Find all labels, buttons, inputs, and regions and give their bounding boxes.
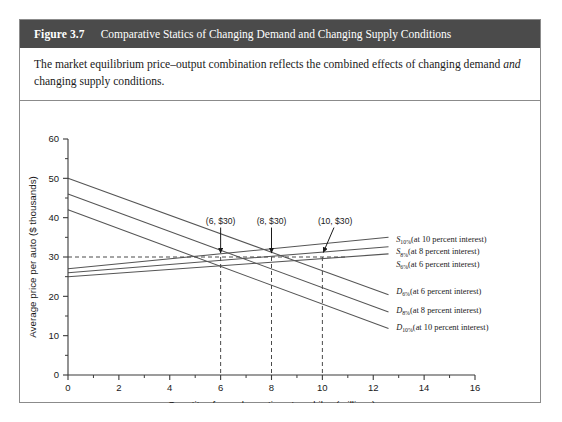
y-tick-label: 40 — [48, 212, 59, 223]
y-tick-label: 0 — [54, 369, 59, 380]
figure-container: Figure 3.7 Comparative Statics of Changi… — [19, 19, 541, 403]
x-tick-label: 2 — [116, 382, 121, 393]
curve-lines-group — [68, 178, 389, 328]
x-tick-label: 10 — [317, 382, 328, 393]
y-axis-title: Average price per auto ($ thousands) — [27, 176, 38, 338]
caption-text-italic: and — [503, 58, 520, 71]
chart-plot-area: 01020304050600246810121416 (6, $30)(8, $… — [20, 101, 542, 403]
x-tick-label: 6 — [218, 382, 223, 393]
annotation-point: (10, $30) — [318, 216, 353, 226]
curve-label-S6: S6%(at 6 percent interest) — [396, 260, 480, 270]
curve-labels-group: D6%(at 6 percent interest)D8%(at 8 perce… — [395, 235, 488, 333]
figure-title: Comparative Statics of Changing Demand a… — [101, 28, 452, 40]
y-tick-label: 30 — [48, 251, 59, 262]
curve-label-D8: D8%(at 8 percent interest) — [395, 306, 481, 316]
y-tick-label: 50 — [48, 173, 59, 184]
curve-S6 — [68, 254, 389, 277]
supply-demand-chart: 01020304050600246810121416 (6, $30)(8, $… — [20, 101, 542, 403]
annotation-point: (6, $30) — [206, 216, 236, 226]
caption-text-part2: changing supply conditions. — [34, 75, 164, 88]
dropline-group — [221, 257, 323, 375]
annotations-group: (6, $30)(8, $30)(10, $30) — [206, 216, 353, 253]
caption-text-part1: The market equilibrium price–output comb… — [34, 58, 503, 71]
x-tick-label: 8 — [269, 382, 274, 393]
x-tick-label: 16 — [470, 382, 481, 393]
curve-label-S10: S10%(at 10 percent interest) — [396, 235, 487, 245]
x-axis-title: Quantity of new domestic automobiles (mi… — [168, 399, 375, 403]
x-tick-label: 12 — [368, 382, 379, 393]
annotation-leader — [323, 228, 334, 253]
curve-label-D6: D6%(at 6 percent interest) — [395, 287, 481, 297]
annotation-point: (8, $30) — [257, 216, 287, 226]
y-tick-label: 60 — [48, 133, 59, 144]
figure-header: Figure 3.7 Comparative Statics of Changi… — [20, 20, 540, 48]
axis-titles-group: Quantity of new domestic automobiles (mi… — [27, 176, 375, 403]
figure-number: Figure 3.7 — [34, 28, 85, 40]
x-tick-label: 4 — [167, 382, 172, 393]
curve-S10 — [68, 237, 389, 268]
x-tick-label: 14 — [419, 382, 430, 393]
curve-D6 — [68, 178, 389, 294]
figure-caption: The market equilibrium price–output comb… — [20, 48, 540, 100]
y-tick-label: 10 — [48, 330, 59, 341]
x-tick-label: 0 — [65, 382, 70, 393]
curve-label-S8: S8%(at 8 percent interest) — [396, 247, 480, 257]
y-tick-label: 20 — [48, 291, 59, 302]
curve-label-D10: D10%(at 10 percent interest) — [395, 323, 488, 333]
